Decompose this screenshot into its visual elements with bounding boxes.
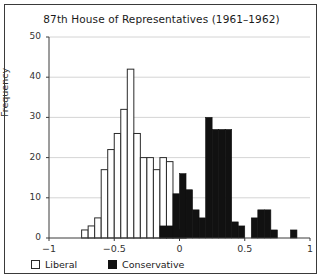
histogram-bar <box>140 158 147 238</box>
histogram-bar <box>193 210 200 238</box>
histogram-bar <box>82 230 89 238</box>
chart-frame: 87th House of Representatives (1961–1962… <box>4 4 317 274</box>
y-axis-title: Frequency <box>0 68 10 117</box>
liberal-bars <box>82 69 186 238</box>
histogram-bar <box>271 230 278 238</box>
histogram-bar <box>173 194 180 238</box>
legend-item-liberal: Liberal <box>31 259 77 270</box>
y-tick-label: 10 <box>19 192 41 202</box>
histogram-bar <box>251 218 258 238</box>
histogram-bar <box>166 226 173 238</box>
y-tick-label: 50 <box>19 31 41 41</box>
histogram-bar <box>101 170 108 238</box>
histogram-bar <box>232 222 239 238</box>
liberal-swatch-icon <box>31 260 40 269</box>
legend-label-conservative: Conservative <box>122 259 184 270</box>
histogram-bar <box>147 158 154 238</box>
x-tick-label: 0 <box>160 243 200 254</box>
x-tick-label: 1 <box>290 243 323 254</box>
histogram-plot <box>5 5 318 253</box>
histogram-bar <box>153 170 160 238</box>
histogram-bar <box>134 133 141 238</box>
chart-title: 87th House of Representatives (1961–1962… <box>5 13 318 25</box>
histogram-bar <box>160 226 167 238</box>
histogram-bar <box>238 226 245 238</box>
histogram-bar <box>88 226 95 238</box>
histogram-bar <box>206 117 213 238</box>
histogram-bar <box>121 109 128 238</box>
y-tick-label: 20 <box>19 152 41 162</box>
histogram-bar <box>212 129 219 238</box>
x-tick-label: −0.5 <box>94 243 134 254</box>
legend-item-conservative: Conservative <box>108 259 184 270</box>
histogram-bar <box>258 210 265 238</box>
histogram-bar <box>186 190 193 238</box>
x-tick-label: −1 <box>29 243 69 254</box>
y-tick-label: 0 <box>19 232 41 242</box>
histogram-bar <box>290 230 297 238</box>
histogram-bar <box>108 150 115 238</box>
y-tick-label: 40 <box>19 71 41 81</box>
histogram-bar <box>180 174 187 238</box>
y-tick-label: 30 <box>19 111 41 121</box>
histogram-bar <box>127 69 134 238</box>
conservative-swatch-icon <box>108 260 117 269</box>
histogram-bar <box>225 129 232 238</box>
legend-label-liberal: Liberal <box>45 259 77 270</box>
histogram-bar <box>219 129 226 238</box>
histogram-bar <box>95 218 102 238</box>
conservative-bars <box>160 117 297 238</box>
histogram-bar <box>114 133 121 238</box>
x-tick-label: 0.5 <box>225 243 265 254</box>
histogram-bar <box>199 218 206 238</box>
histogram-bar <box>264 210 271 238</box>
